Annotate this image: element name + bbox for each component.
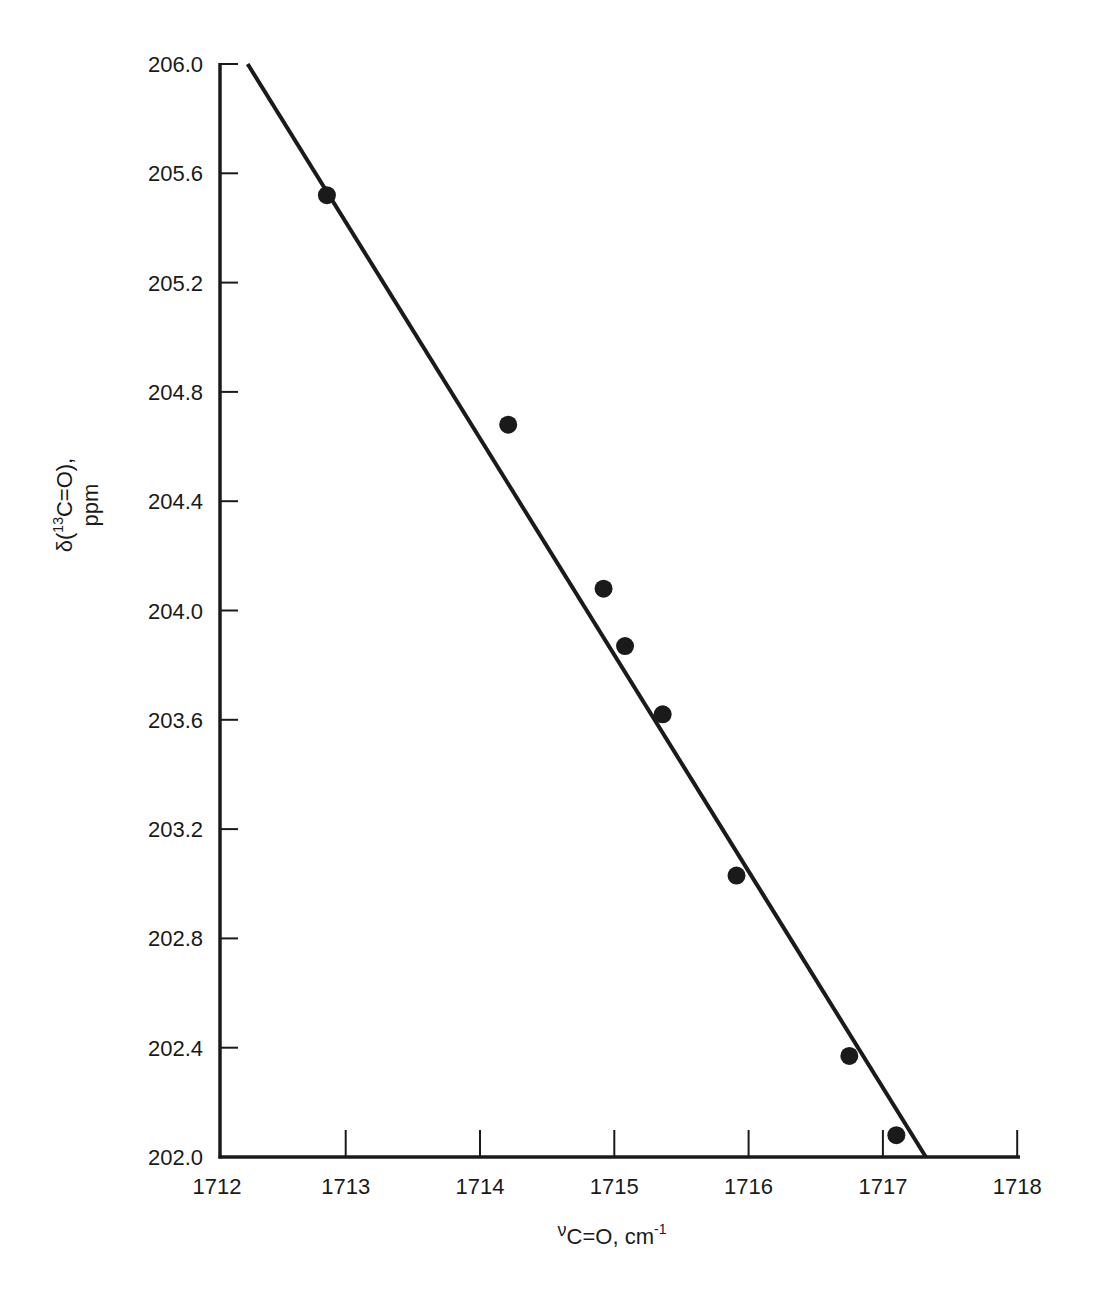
regression-line [248, 64, 926, 1157]
x-axis-title: νC=O, cm-1 [558, 1220, 667, 1249]
data-point [887, 1126, 905, 1144]
data-point [728, 867, 746, 885]
data-points [318, 186, 905, 1144]
axes [219, 63, 1021, 1159]
x-tick-label: 1716 [724, 1174, 773, 1199]
y-tick-label: 206.0 [148, 52, 203, 77]
x-tick-label: 1717 [858, 1174, 907, 1199]
x-tick-label: 1718 [993, 1174, 1042, 1199]
y-axis-ticks: 206.0205.6205.2204.8204.4204.0203.6203.2… [148, 52, 238, 1170]
x-tick-label: 1713 [321, 1174, 370, 1199]
y-tick-label: 203.2 [148, 817, 203, 842]
y-tick-label: 204.8 [148, 380, 203, 405]
x-tick-label: 1712 [193, 1174, 242, 1199]
data-point [499, 416, 517, 434]
y-tick-label: 202.8 [148, 926, 203, 951]
y-tick-label: 202.4 [148, 1036, 203, 1061]
data-point [654, 705, 672, 723]
data-point [318, 186, 336, 204]
y-tick-label: 205.2 [148, 271, 203, 296]
y-tick-label: 205.6 [148, 161, 203, 186]
scatter-chart: 206.0205.6205.2204.8204.4204.0203.6203.2… [0, 0, 1097, 1289]
fit-line [248, 64, 926, 1157]
x-tick-label: 1714 [456, 1174, 505, 1199]
data-point [595, 580, 613, 598]
y-tick-label: 203.6 [148, 708, 203, 733]
data-point [840, 1047, 858, 1065]
y-tick-label: 204.0 [148, 599, 203, 624]
y-tick-label: 204.4 [148, 489, 203, 514]
svg-text:ppm: ppm [78, 484, 103, 527]
x-tick-label: 1715 [590, 1174, 639, 1199]
y-axis-title: δ(13C=O), ppm [50, 458, 103, 552]
data-point [616, 637, 634, 655]
svg-text:δ(13C=O),: δ(13C=O), [50, 458, 77, 552]
y-tick-label: 202.0 [148, 1145, 203, 1170]
